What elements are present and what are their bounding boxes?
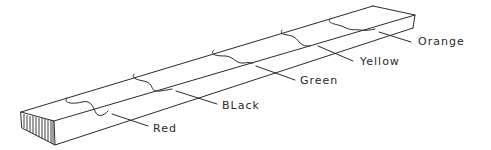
board-sketch — [0, 0, 491, 150]
label-black: BLack — [222, 100, 260, 111]
leader-black — [176, 91, 217, 104]
section-dividers — [66, 19, 375, 115]
label-green: Green — [300, 75, 338, 86]
leader-yellow — [318, 46, 353, 61]
label-yellow: Yellow — [360, 56, 400, 67]
label-red: Red — [153, 123, 177, 134]
end-grain-hatch-icon — [24, 114, 53, 144]
board-outline — [21, 6, 415, 145]
label-orange: Orange — [418, 36, 465, 47]
wavy-divider-3 — [212, 50, 253, 63]
